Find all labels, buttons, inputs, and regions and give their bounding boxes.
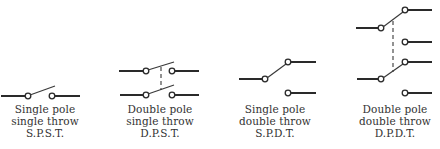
- spdt-blade: [267, 64, 286, 78]
- spdt-caption-line-2: double throw: [220, 115, 330, 127]
- dpdt-contact-terminal-1b: [402, 39, 408, 45]
- dpst-contact-terminal-2: [169, 92, 175, 98]
- dpst-contact-terminal-1: [169, 68, 175, 74]
- dpdt-caption: Double pole double throw D.P.D.T.: [340, 103, 440, 139]
- dpdt-symbol: [356, 7, 432, 96]
- dpst-symbol: [119, 62, 199, 98]
- dpdt-contact-terminal-1a: [402, 7, 408, 13]
- dpst-caption-line-2: single throw: [105, 115, 215, 127]
- spst-contact-terminal: [49, 93, 55, 99]
- dpst-pivot-terminal-1: [143, 68, 149, 74]
- dpdt-caption-line-3: D.P.D.T.: [340, 127, 440, 139]
- spst-caption-line-1: Single pole: [0, 103, 100, 115]
- dpdt-caption-line-2: double throw: [340, 115, 440, 127]
- spdt-contact-terminal-1: [285, 59, 291, 65]
- dpdt-pivot-terminal-2: [378, 76, 384, 82]
- dpst-pivot-terminal-2: [143, 92, 149, 98]
- spdt-caption-line-1: Single pole: [220, 103, 330, 115]
- spst-caption-line-3: S.P.S.T.: [0, 127, 100, 139]
- dpdt-pivot-terminal-1: [378, 25, 384, 31]
- dpst-caption: Double pole single throw D.P.S.T.: [105, 103, 215, 139]
- dpst-caption-line-3: D.P.S.T.: [105, 127, 215, 139]
- spdt-caption: Single pole double throw S.P.D.T.: [220, 103, 330, 139]
- spdt-symbol: [239, 59, 316, 96]
- spst-pivot-terminal: [25, 93, 31, 99]
- dpst-caption-line-1: Double pole: [105, 103, 215, 115]
- dpdt-caption-line-1: Double pole: [340, 103, 440, 115]
- dpdt-contact-terminal-2a: [402, 59, 408, 65]
- spdt-contact-terminal-2: [285, 90, 291, 96]
- spdt-pivot-terminal: [262, 76, 268, 82]
- spst-caption-line-2: single throw: [0, 115, 100, 127]
- spst-symbol: [1, 86, 80, 99]
- spdt-caption-line-3: S.P.D.T.: [220, 127, 330, 139]
- spst-caption: Single pole single throw S.P.S.T.: [0, 103, 100, 139]
- dpdt-contact-terminal-2b: [402, 90, 408, 96]
